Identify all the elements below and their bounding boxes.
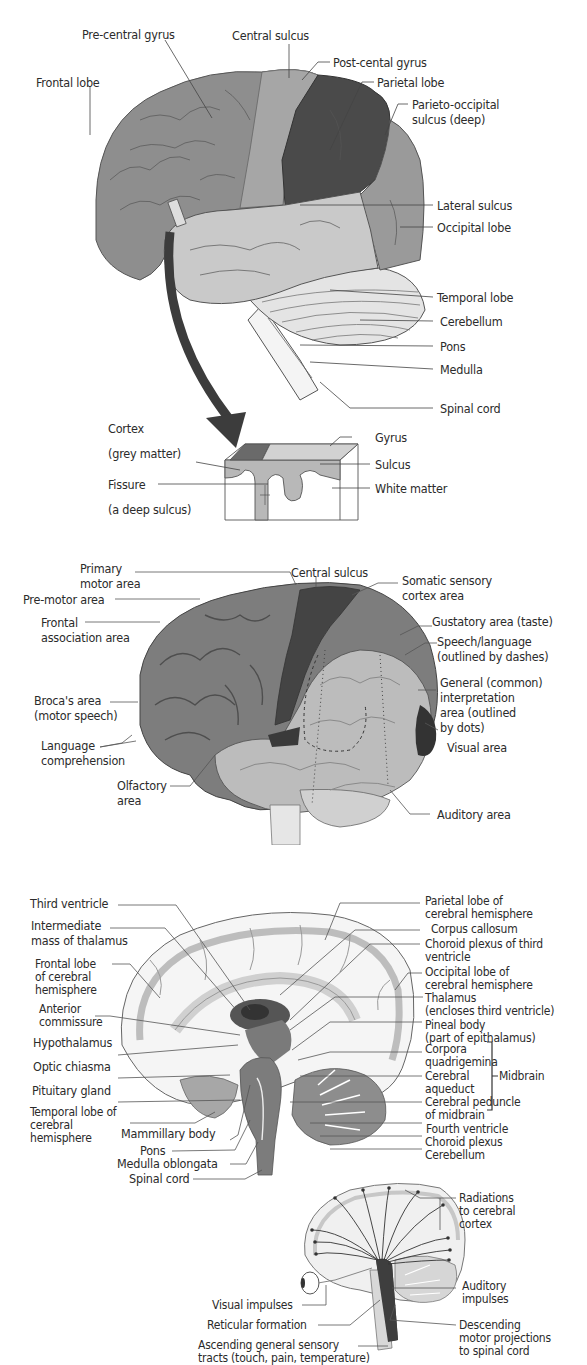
label-third-ventricle: Third ventricle (30, 896, 108, 911)
label-pons: Pons (440, 339, 465, 354)
label-choroid-plexus-third: Choroid plexus of third ventricle (425, 938, 543, 964)
cortex-block (225, 444, 358, 520)
label-spinal-cord: Spinal cord (440, 401, 501, 416)
label-visual-impulses: Visual impulses (212, 1299, 293, 1312)
figure-reticular-system: Radiations to cerebral cortex Auditory i… (0, 1180, 587, 1365)
label-midbrain: Midbrain (499, 1070, 544, 1083)
label-pre-motor-area: Pre-motor area (23, 592, 104, 607)
label-parietal-lobe-cerebral: Parietal lobe of cerebral hemisphere (425, 895, 533, 921)
label-brocas-area: Broca's area (motor speech) (34, 693, 117, 723)
label-mammillary-body: Mammillary body (121, 1126, 215, 1141)
label-radiations-cerebral-cortex: Radiations to cerebral cortex (459, 1192, 515, 1231)
label-intermediate-mass: Intermediate mass of thalamus (31, 918, 128, 948)
label-frontal-lobe-cerebral: Frontal lobe of cerebral hemisphere (35, 958, 97, 997)
label-central-sulcus: Central sulcus (232, 28, 309, 43)
label-cerebellum-2: Cerebellum (425, 1149, 485, 1162)
label-temporal-lobe-cerebral: Temporal lobe of cerebral hemisphere (30, 1106, 116, 1145)
label-somatic-sensory: Somatic sensory cortex area (402, 573, 492, 603)
label-visual-area: Visual area (447, 740, 507, 755)
label-fissure: Fissure (108, 477, 145, 492)
label-ascending-sensory-tracts: Ascending general sensory tracts (touch,… (198, 1339, 370, 1365)
label-primary-motor-area: Primary motor area (80, 561, 140, 591)
label-medulla-oblongata: Medulla oblongata (117, 1156, 218, 1171)
label-olfactory-area: Olfactory area (117, 778, 167, 808)
label-auditory-area: Auditory area (437, 807, 511, 822)
label-descending-motor: Descending motor projections to spinal c… (459, 1319, 551, 1358)
label-grey-matter: (grey matter) (108, 446, 181, 461)
label-post-central-gyrus: Post-cental gyrus (333, 55, 427, 70)
figure-functional-areas: Primary motor area Central sulcus Somati… (0, 555, 587, 845)
label-frontal-association: Frontal association area (41, 615, 130, 645)
label-language-comprehension: Language comprehension (41, 738, 125, 768)
label-occipital-lobe: Occipital lobe (437, 220, 511, 235)
label-gyrus: Gyrus (375, 430, 407, 445)
figure-lateral-lobes: Pre-central gyrus Central sulcus Post-ce… (0, 0, 587, 545)
label-cerebral-aqueduct: Cerebral aqueduct (425, 1070, 474, 1096)
label-parietal-lobe: Parietal lobe (377, 75, 444, 90)
label-white-matter: White matter (375, 481, 447, 496)
label-corpora-quadrigemina: Corpora quadrigemina (425, 1043, 498, 1069)
label-speech-language: Speech/language (outlined by dashes) (437, 634, 548, 664)
label-occipital-lobe-cerebral: Occipital lobe of cerebral hemisphere (425, 966, 533, 992)
label-sulcus: Sulcus (375, 457, 410, 472)
label-general-interpretation: General (common) interpretation area (ou… (440, 675, 542, 735)
label-cortex: Cortex (108, 421, 144, 436)
label-hypothalamus: Hypothalamus (33, 1035, 112, 1050)
label-pituitary-gland: Pituitary gland (32, 1083, 111, 1098)
label-parieto-occipital-sulcus: Parieto-occipital sulcus (deep) (412, 97, 499, 127)
label-auditory-impulses: Auditory impulses (462, 1280, 509, 1306)
figure-midsagittal: Third ventricle Intermediate mass of tha… (0, 880, 587, 1180)
label-lateral-sulcus: Lateral sulcus (437, 198, 512, 213)
label-corpus-callosum: Corpus callosum (431, 923, 517, 936)
label-gustatory-area: Gustatory area (taste) (432, 614, 553, 629)
label-central-sulcus-2: Central sulcus (291, 565, 368, 580)
label-anterior-commissure: Anterior commissure (39, 1003, 103, 1029)
label-temporal-lobe: Temporal lobe (437, 290, 513, 305)
label-cerebral-peduncle: Cerebral peduncle of midbrain (425, 1096, 521, 1122)
label-deep-sulcus: (a deep sulcus) (108, 502, 191, 517)
label-cerebellum: Cerebellum (440, 314, 502, 329)
label-medulla: Medulla (440, 362, 483, 377)
label-optic-chiasma: Optic chiasma (33, 1059, 111, 1074)
label-pre-central-gyrus: Pre-central gyrus (82, 27, 175, 42)
label-thalamus: Thalamus (encloses third ventricle) (425, 992, 554, 1018)
label-frontal-lobe: Frontal lobe (36, 75, 100, 90)
label-reticular-formation: Reticular formation (207, 1319, 307, 1332)
